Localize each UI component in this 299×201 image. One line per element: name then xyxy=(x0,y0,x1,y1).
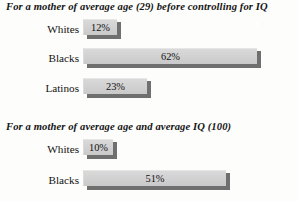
bar: 10% xyxy=(83,139,113,159)
bar-body: 12% xyxy=(83,19,117,35)
category-label: Latinos xyxy=(0,80,79,97)
bar-value-label: 62% xyxy=(84,49,257,65)
bar-value-label: 12% xyxy=(84,20,117,36)
bar-value-label: 23% xyxy=(84,79,147,95)
chart-page: For a mother of average age (29) before … xyxy=(0,0,299,201)
category-label: Whites xyxy=(0,141,79,158)
bar-body: 51% xyxy=(83,170,226,186)
bar-value-label: 51% xyxy=(84,171,226,187)
category-label: Blacks xyxy=(0,172,79,189)
bar-body: 23% xyxy=(83,78,147,94)
bar: 62% xyxy=(83,48,257,68)
bar-body: 62% xyxy=(83,48,257,64)
category-label: Whites xyxy=(0,21,79,38)
bar-value-label: 10% xyxy=(84,140,113,156)
bar: 23% xyxy=(83,78,147,98)
panel-1-title: For a mother of average age (29) before … xyxy=(6,1,268,12)
category-label: Blacks xyxy=(0,50,79,67)
bar: 12% xyxy=(83,19,117,39)
bar: 51% xyxy=(83,170,226,190)
panel-2-title: For a mother of average age and average … xyxy=(6,121,231,132)
bar-body: 10% xyxy=(83,139,113,155)
